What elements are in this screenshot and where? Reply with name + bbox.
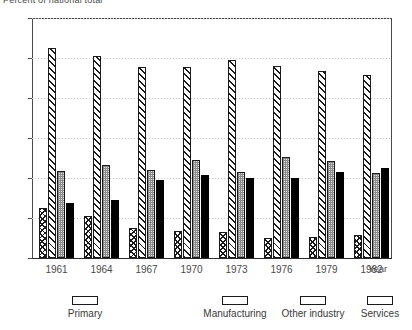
bar-other-1979 (327, 161, 336, 258)
bar-group-1970 (174, 18, 210, 258)
bar-services-1961 (66, 203, 75, 258)
bar-other-1961 (57, 171, 66, 258)
bar-primary-1970 (174, 231, 183, 258)
x-axis-tick-label: 1964 (82, 264, 122, 275)
bar-other-1982 (372, 173, 381, 258)
bar-primary-1973 (219, 232, 228, 258)
diagonal-cross-hatch-swatch (72, 296, 98, 305)
legend-item-primary[interactable]: Primary (40, 296, 130, 319)
x-axis-title: Year (368, 263, 387, 274)
bar-manufacturing-1979 (318, 71, 327, 258)
bar-other-1967 (147, 170, 156, 258)
bar-primary-1982 (354, 235, 363, 258)
bar-services-1979 (336, 172, 345, 258)
legend-label: Primary (40, 308, 130, 319)
bar-services-1982 (381, 168, 390, 258)
bar-services-1967 (156, 180, 165, 258)
bar-services-1976 (291, 178, 300, 258)
x-axis-tick-label: 1961 (37, 264, 77, 275)
legend-label: Services (340, 308, 412, 319)
bar-manufacturing-1976 (273, 66, 282, 258)
bar-chart: Percent of national total 0102030405060 … (0, 0, 412, 330)
bar-group-1982 (354, 18, 390, 258)
bar-primary-1976 (264, 238, 273, 258)
bar-services-1964 (111, 200, 120, 258)
bar-other-1964 (102, 165, 111, 258)
bar-manufacturing-1967 (138, 67, 147, 258)
x-axis-tick-label: 1967 (127, 264, 167, 275)
bar-group-1967 (129, 18, 165, 258)
bar-services-1970 (201, 175, 210, 258)
bar-group-1964 (84, 18, 120, 258)
plot-area: 0102030405060 19611964196719701973197619… (32, 18, 392, 258)
bar-other-1973 (237, 172, 246, 258)
x-axis-tick-label: 1973 (217, 264, 257, 275)
bar-primary-1964 (84, 216, 93, 258)
solid-black-swatch (367, 296, 393, 305)
bar-other-1970 (192, 160, 201, 258)
bar-other-1976 (282, 157, 291, 258)
x-axis-tick-label: 1970 (172, 264, 212, 275)
x-axis-line (32, 258, 392, 259)
bar-manufacturing-1970 (183, 67, 192, 258)
diagonal-hatch-swatch (222, 296, 248, 305)
bar-manufacturing-1973 (228, 60, 237, 258)
stipple-swatch (300, 296, 326, 305)
bar-group-1976 (264, 18, 300, 258)
bar-manufacturing-1964 (93, 56, 102, 258)
y-axis-tick-mark (28, 258, 33, 259)
x-axis-tick-label: 1976 (262, 264, 302, 275)
chart-legend: PrimaryManufacturingOther industryServic… (0, 296, 412, 330)
bar-primary-1967 (129, 228, 138, 258)
bar-manufacturing-1982 (363, 75, 372, 258)
bar-group-1979 (309, 18, 345, 258)
x-axis-tick-label: 1979 (307, 264, 347, 275)
bar-group-1973 (219, 18, 255, 258)
legend-item-services[interactable]: Services (340, 296, 412, 319)
bar-manufacturing-1961 (48, 48, 57, 258)
bar-primary-1979 (309, 237, 318, 258)
chart-title: Percent of national total (3, 0, 103, 5)
bar-primary-1961 (39, 208, 48, 258)
bar-group-1961 (39, 18, 75, 258)
bar-services-1973 (246, 178, 255, 258)
